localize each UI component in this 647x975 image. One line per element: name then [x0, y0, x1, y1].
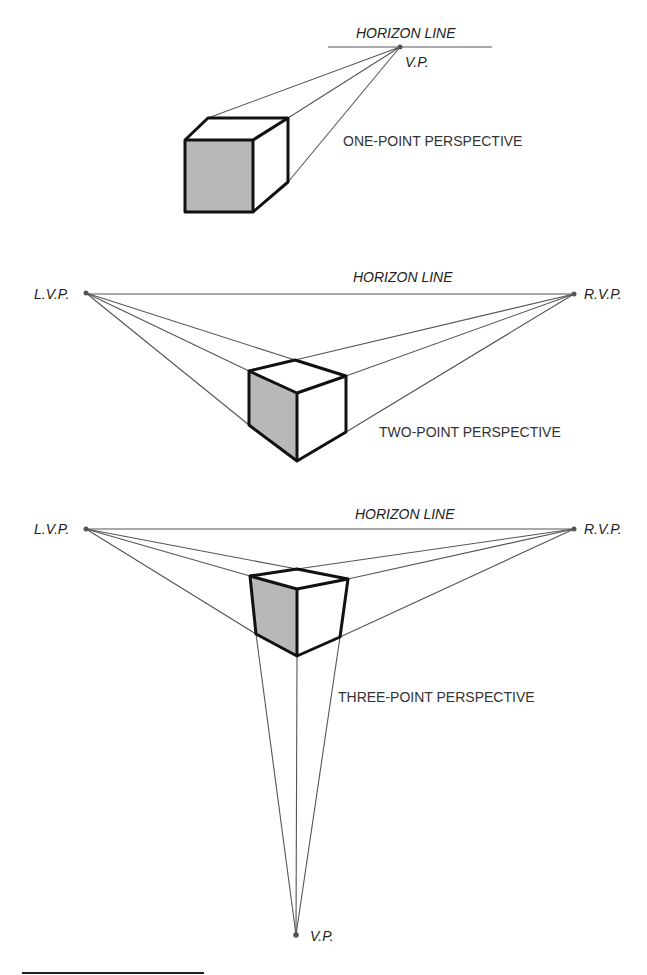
perspective-diagram: HORIZON LINE V.P. ONE-POINT PERSPECTIVE …: [0, 0, 647, 975]
guide-line: [296, 637, 340, 935]
guide-line: [346, 294, 574, 432]
bottom-vanishing-point-3: [293, 932, 299, 938]
horizon-label-3: HORIZON LINE: [355, 506, 455, 522]
rvp-label-3: R.V.P.: [584, 521, 622, 537]
three-point-section: HORIZON LINE L.V.P. R.V.P. V.P. THREE-PO…: [34, 506, 622, 944]
vp-label-3: V.P.: [310, 928, 334, 944]
left-vanishing-point-2: [84, 291, 89, 296]
right-vanishing-point-2: [572, 292, 577, 297]
horizon-label-2: HORIZON LINE: [353, 269, 453, 285]
guide-line: [296, 656, 297, 935]
guide-line: [295, 294, 574, 360]
vanishing-point-1: [398, 45, 403, 50]
guide-line: [346, 294, 574, 376]
rvp-label-2: R.V.P.: [584, 286, 622, 302]
one-point-section: HORIZON LINE V.P. ONE-POINT PERSPECTIVE: [185, 25, 522, 212]
cube-left-face-2: [249, 371, 297, 461]
vp-label-1: V.P.: [405, 54, 429, 70]
caption-two-point: TWO-POINT PERSPECTIVE: [379, 424, 561, 440]
guide-line: [86, 529, 250, 576]
two-point-section: HORIZON LINE L.V.P. R.V.P. TWO-POINT PER…: [34, 269, 622, 461]
guide-line: [86, 293, 295, 360]
caption-one-point: ONE-POINT PERSPECTIVE: [343, 133, 522, 149]
cube-front-face-1: [185, 140, 253, 212]
horizon-label-1: HORIZON LINE: [356, 25, 456, 41]
guide-line: [256, 634, 296, 935]
lvp-label-3: L.V.P.: [34, 521, 69, 537]
left-vanishing-point-3: [84, 527, 89, 532]
cube-1-inner-edges: [185, 118, 288, 140]
guide-line: [297, 529, 574, 569]
guide-line: [348, 529, 574, 579]
lvp-label-2: L.V.P.: [34, 286, 69, 302]
caption-three-point: THREE-POINT PERSPECTIVE: [338, 689, 535, 705]
guide-line: [340, 529, 574, 637]
right-vanishing-point-3: [572, 527, 577, 532]
